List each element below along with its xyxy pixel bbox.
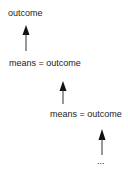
node-means-outcome-2: means = outcome [50,109,122,119]
arrow-up-icon [22,25,30,51]
node-outcome: outcome [8,8,43,18]
arrow-up-icon [98,129,106,155]
node-ellipsis: ... [97,156,105,166]
node-means-outcome-1: means = outcome [9,58,81,68]
arrow-up-icon [59,81,67,104]
